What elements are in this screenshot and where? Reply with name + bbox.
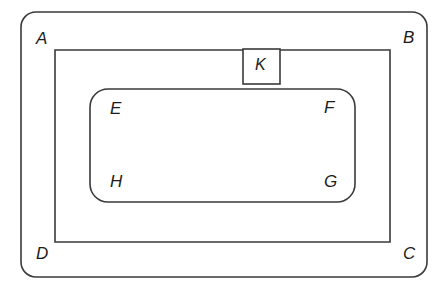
vertex-label-f: F bbox=[324, 99, 334, 116]
vertex-label-b: B bbox=[403, 29, 414, 46]
vertex-label-d: D bbox=[36, 245, 48, 262]
vertex-label-a: A bbox=[36, 30, 47, 47]
diagram-vector-layer bbox=[0, 0, 448, 294]
vertex-label-e: E bbox=[110, 100, 121, 117]
vertex-label-h: H bbox=[110, 173, 122, 190]
vertex-label-c: C bbox=[403, 245, 415, 262]
outer-rounded-rectangle bbox=[21, 12, 427, 277]
middle-rectangle bbox=[55, 50, 390, 242]
diagram-canvas: A B C D E F G H K bbox=[0, 0, 448, 294]
vertex-label-g: G bbox=[324, 173, 337, 190]
vertex-label-k: K bbox=[255, 57, 266, 73]
inner-rounded-rectangle bbox=[90, 89, 355, 202]
